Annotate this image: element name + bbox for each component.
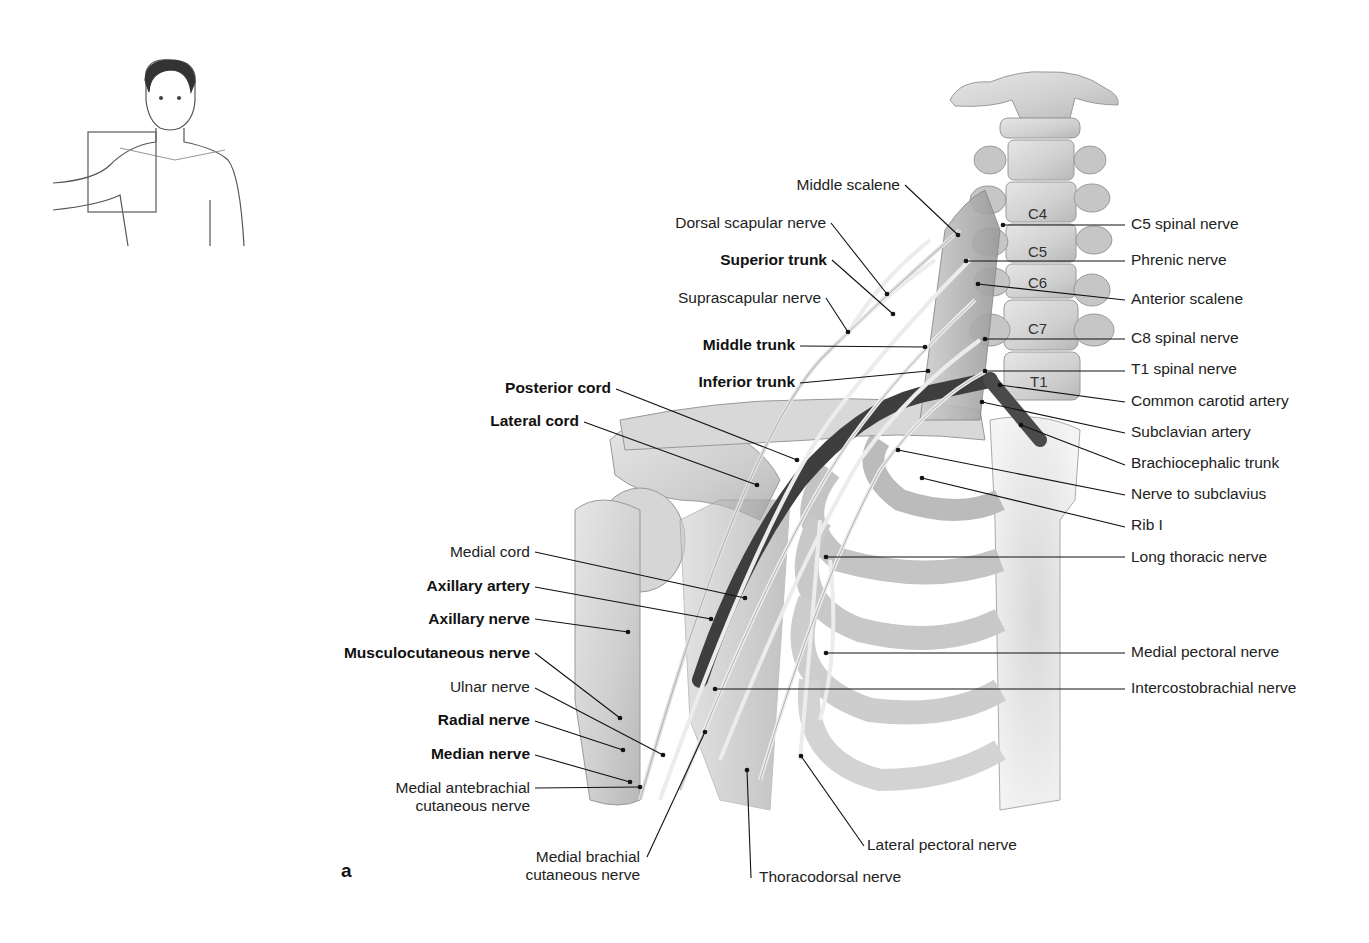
label-t1-spinal-nerve: T1 spinal nerve	[1131, 360, 1237, 378]
label-phrenic-nerve: Phrenic nerve	[1131, 251, 1227, 269]
label-medial-pectoral-nerve: Medial pectoral nerve	[1131, 643, 1279, 661]
label-lateral-cord: Lateral cord	[490, 412, 579, 430]
label-c8-spinal-nerve: C8 spinal nerve	[1131, 329, 1239, 347]
label-thoracodorsal-nerve: Thoracodorsal nerve	[759, 868, 901, 886]
label-subclavian-artery: Subclavian artery	[1131, 423, 1251, 441]
label-ulnar-nerve: Ulnar nerve	[450, 678, 530, 696]
vertebra-c4: C4	[1028, 205, 1047, 222]
label-musculocutaneous-nerve: Musculocutaneous nerve	[344, 644, 530, 662]
label-inferior-trunk: Inferior trunk	[699, 373, 795, 391]
rib-cage	[803, 417, 1081, 810]
label-anterior-scalene: Anterior scalene	[1131, 290, 1243, 308]
vertebra-c7: C7	[1028, 320, 1047, 337]
label-superior-trunk: Superior trunk	[720, 251, 827, 269]
label-posterior-cord: Posterior cord	[505, 379, 611, 397]
label-median-nerve: Median nerve	[431, 745, 530, 763]
panel-letter: a	[341, 860, 352, 882]
label-c5-spinal-nerve: C5 spinal nerve	[1131, 215, 1239, 233]
label-middle-scalene: Middle scalene	[797, 176, 900, 194]
label-axillary-artery: Axillary artery	[427, 577, 530, 595]
brachial-plexus-figure: C4C5C6C7T1 Middle scaleneDorsal scapular…	[0, 0, 1369, 943]
vertebra-c6: C6	[1028, 274, 1047, 291]
vertebra-t1: T1	[1030, 373, 1048, 390]
label-suprascapular-nerve: Suprascapular nerve	[678, 289, 821, 307]
label-dorsal-scapular-nerve: Dorsal scapular nerve	[675, 214, 826, 232]
label-common-carotid-artery: Common carotid artery	[1131, 392, 1289, 410]
label-axillary-nerve: Axillary nerve	[428, 610, 530, 628]
vertebra-c5: C5	[1028, 243, 1047, 260]
label-long-thoracic-nerve: Long thoracic nerve	[1131, 548, 1267, 566]
label-medial-antebrachial-cutaneous-nerve: Medial antebrachial cutaneous nerve	[396, 779, 530, 815]
label-intercostobrachial-nerve: Intercostobrachial nerve	[1131, 679, 1296, 697]
orientation-inset	[53, 60, 244, 246]
label-radial-nerve: Radial nerve	[438, 711, 530, 729]
label-nerve-to-subclavius: Nerve to subclavius	[1131, 485, 1266, 503]
label-middle-trunk: Middle trunk	[703, 336, 795, 354]
label-medial-brachial-cutaneous-nerve: Medial brachial cutaneous nerve	[525, 848, 640, 884]
label-medial-cord: Medial cord	[450, 543, 530, 561]
label-brachiocephalic-trunk: Brachiocephalic trunk	[1131, 454, 1279, 472]
label-lateral-pectoral-nerve: Lateral pectoral nerve	[867, 836, 1017, 854]
label-rib-i: Rib I	[1131, 516, 1163, 534]
